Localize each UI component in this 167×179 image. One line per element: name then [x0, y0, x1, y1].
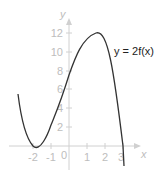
origin-label: 0: [61, 149, 67, 161]
x-tick-label: -1: [46, 151, 56, 163]
y-axis-label: y: [59, 8, 67, 20]
x-tick-label: 1: [84, 151, 90, 163]
x-axis-label: x: [140, 148, 147, 160]
x-axis-arrow-icon: [134, 143, 141, 149]
y-tick-label: 12: [51, 27, 63, 39]
y-tick-label: 2: [57, 121, 63, 133]
x-tick-label: 2: [102, 151, 108, 163]
y-tick-label: 10: [51, 46, 63, 58]
curve-label: y = 2f(x): [114, 45, 154, 57]
graph: 12 10 8 6 4 2 -2 -1 0 1 2 3 x y y = 2f(x…: [0, 0, 167, 179]
y-tick-label: 6: [57, 83, 63, 95]
y-tick-label: 8: [57, 65, 63, 77]
x-tick-label: -2: [28, 151, 38, 163]
y-axis-arrow-icon: [66, 18, 72, 25]
